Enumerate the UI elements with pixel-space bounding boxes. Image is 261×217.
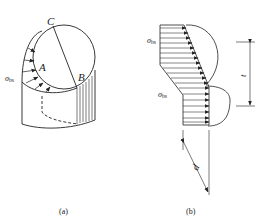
point-b-label: B <box>78 71 85 83</box>
dimension-t <box>236 42 255 106</box>
point-c-label: C <box>47 15 55 27</box>
pin-profile-line <box>184 25 209 125</box>
bearing-stress-diagram: C A B σbs (a) <box>0 0 261 217</box>
panel-b <box>160 25 255 195</box>
caption-a: (a) <box>59 207 68 216</box>
sigma-bs-label-bottom: σbs <box>158 90 167 99</box>
line-c-b <box>53 26 77 88</box>
sigma-bs-label-a: σbs <box>5 74 14 83</box>
dimension-d <box>183 130 209 195</box>
hidden-edge-dashed <box>42 96 78 124</box>
sigma-bs-label-top: σbs <box>147 36 156 45</box>
caption-b: (b) <box>186 207 196 216</box>
cylinder-bottom-edge <box>22 120 95 128</box>
pin-semicircle-upper <box>186 25 218 85</box>
section-hatching <box>77 76 92 124</box>
distribution-left-edge <box>160 25 183 125</box>
point-a-label: A <box>38 61 46 73</box>
pin-circle <box>33 25 95 89</box>
pin-semicircle-lower <box>206 86 230 126</box>
dimension-t-label: t <box>238 74 248 77</box>
dimension-d-label: d <box>189 162 202 172</box>
